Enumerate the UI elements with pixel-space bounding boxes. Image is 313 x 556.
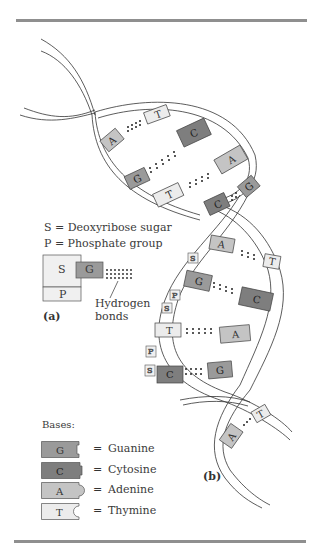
adenine-icon: A [41,482,89,499]
base-T: T [155,323,181,337]
base-A: A [219,325,250,344]
legend-sugar: S = Deoxyribose sugar [44,221,172,234]
base-C: C [157,366,183,383]
phosphate-label: P [59,288,66,301]
svg-text:P: P [172,291,178,300]
bases-heading: Bases: [42,419,75,430]
hydrogen-label-2: bonds [95,310,128,323]
base-A: A [100,128,124,152]
equals-sign: = [93,504,102,517]
svg-text:G: G [56,445,64,456]
base-label: G [85,263,94,276]
svg-text:T: T [56,507,63,518]
base-C: C [204,193,230,216]
svg-text:P: P [148,347,154,356]
thymine-icon: T [41,503,85,520]
base-T: T [263,254,281,270]
key-row-guanine: G = Guanine [41,441,191,458]
base-T: T [251,404,271,422]
svg-text:S: S [147,366,152,375]
svg-text:C: C [56,466,64,477]
panel-a-label: (a) [43,310,61,323]
backbone-s: S [190,254,195,263]
equals-sign: = [93,463,102,476]
base-name: Cytosine [108,463,156,476]
svg-text:S: S [164,304,169,313]
base-G: G [207,361,232,379]
svg-text:C: C [166,369,174,380]
base-name: Adenine [108,483,154,496]
guanine-icon: G [41,441,85,458]
equals-sign: = [93,483,102,496]
key-row-cytosine: C = Cytosine [41,462,191,479]
bottom-rule [14,540,306,543]
base-G: G [237,175,260,197]
helix-bases: A T C G A T G C A T G C T A C G A T [100,105,281,449]
base-C: C [238,287,273,311]
base-name: Thymine [108,504,156,517]
svg-text:G: G [216,365,225,377]
base-C: C [177,118,212,147]
panel-b-label: (b) [203,470,221,483]
legend-phosphate: P = Phosphate group [44,237,163,250]
pointer-line [110,281,118,298]
svg-text:T: T [166,325,173,336]
base-A: A [214,145,248,174]
key-row-adenine: A = Adenine [41,482,191,499]
base-T: T [144,105,171,124]
base-G: G [184,270,213,291]
hydrogen-label-1: Hydrogen [95,297,150,310]
cytosine-icon: C [41,462,85,479]
equals-sign: = [93,442,102,455]
key-row-thymine: T = Thymine [41,503,191,520]
sugar-label: S [58,263,66,276]
base-A: A [209,235,235,253]
svg-text:A: A [55,486,64,497]
base-name: Guanine [108,442,155,455]
base-G: G [124,167,150,189]
